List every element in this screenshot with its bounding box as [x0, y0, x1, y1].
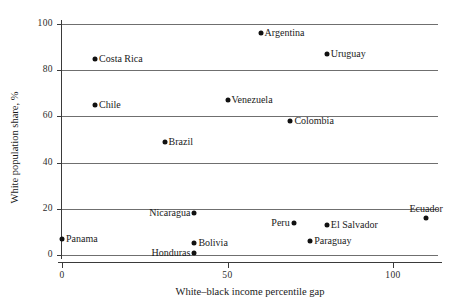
data-point-paraguay[interactable]	[308, 239, 313, 244]
data-label-peru: Peru	[271, 218, 289, 228]
y-tick-label-80: 80	[0, 64, 53, 74]
data-label-paraguay: Paraguay	[314, 236, 351, 246]
data-label-brazil: Brazil	[169, 137, 193, 147]
x-tick-label-50: 50	[222, 270, 232, 280]
y-tick-mark-20	[57, 209, 62, 210]
data-label-argentina: Argentina	[265, 28, 305, 38]
data-point-uruguay[interactable]	[324, 52, 329, 57]
data-label-nicaragua: Nicaragua	[149, 208, 190, 218]
y-tick-mark-40	[57, 163, 62, 164]
gridline-y-80	[62, 70, 438, 71]
data-label-venezuela: Venezuela	[232, 95, 273, 105]
data-label-costa-rica: Costa Rica	[99, 54, 143, 64]
y-tick-mark-60	[57, 116, 62, 117]
data-point-honduras[interactable]	[192, 250, 197, 255]
data-label-chile: Chile	[99, 100, 121, 110]
data-label-panama: Panama	[66, 234, 98, 244]
gridline-y-100	[62, 24, 438, 25]
data-label-honduras: Honduras	[152, 248, 191, 258]
data-label-bolivia: Bolivia	[198, 238, 227, 248]
x-tick-mark-50	[228, 263, 229, 268]
x-tick-mark-0	[62, 263, 63, 268]
gridline-y-20	[62, 209, 438, 210]
y-axis-line	[61, 20, 62, 259]
data-point-venezuela[interactable]	[225, 98, 230, 103]
data-label-uruguay: Uruguay	[331, 49, 366, 59]
data-label-colombia: Colombia	[294, 116, 333, 126]
y-tick-label-100: 100	[0, 18, 53, 28]
data-point-nicaragua[interactable]	[192, 211, 197, 216]
x-tick-label-100: 100	[385, 270, 400, 280]
data-point-bolivia[interactable]	[192, 241, 197, 246]
data-point-costa-rica[interactable]	[93, 56, 98, 61]
y-axis-title: White population share, %	[9, 32, 25, 263]
data-point-el-salvador[interactable]	[324, 222, 329, 227]
y-tick-mark-80	[57, 70, 62, 71]
data-point-peru[interactable]	[291, 220, 296, 225]
y-tick-label-20: 20	[0, 203, 53, 213]
data-point-panama[interactable]	[60, 236, 65, 241]
x-tick-label-0: 0	[59, 270, 64, 280]
y-tick-label-40: 40	[0, 157, 53, 167]
y-tick-mark-100	[57, 24, 62, 25]
y-tick-mark-0	[57, 255, 62, 256]
y-tick-label-0: 0	[0, 249, 53, 259]
data-point-colombia[interactable]	[288, 119, 293, 124]
y-tick-label-60: 60	[0, 110, 53, 120]
x-axis-title: White–black income percentile gap	[62, 286, 438, 297]
gridline-y-0	[62, 255, 438, 256]
data-point-argentina[interactable]	[258, 31, 263, 36]
data-label-el-salvador: El Salvador	[331, 220, 378, 230]
data-label-ecuador: Ecuador	[409, 204, 442, 214]
x-axis-line	[58, 262, 442, 263]
data-point-chile[interactable]	[93, 102, 98, 107]
data-point-brazil[interactable]	[162, 139, 167, 144]
scatter-chart-figure: 020406080100 050100 ArgentinaUruguayCost…	[0, 0, 450, 306]
gridline-y-60	[62, 116, 438, 117]
data-point-ecuador[interactable]	[424, 216, 429, 221]
gridline-y-40	[62, 163, 438, 164]
x-tick-mark-100	[393, 263, 394, 268]
